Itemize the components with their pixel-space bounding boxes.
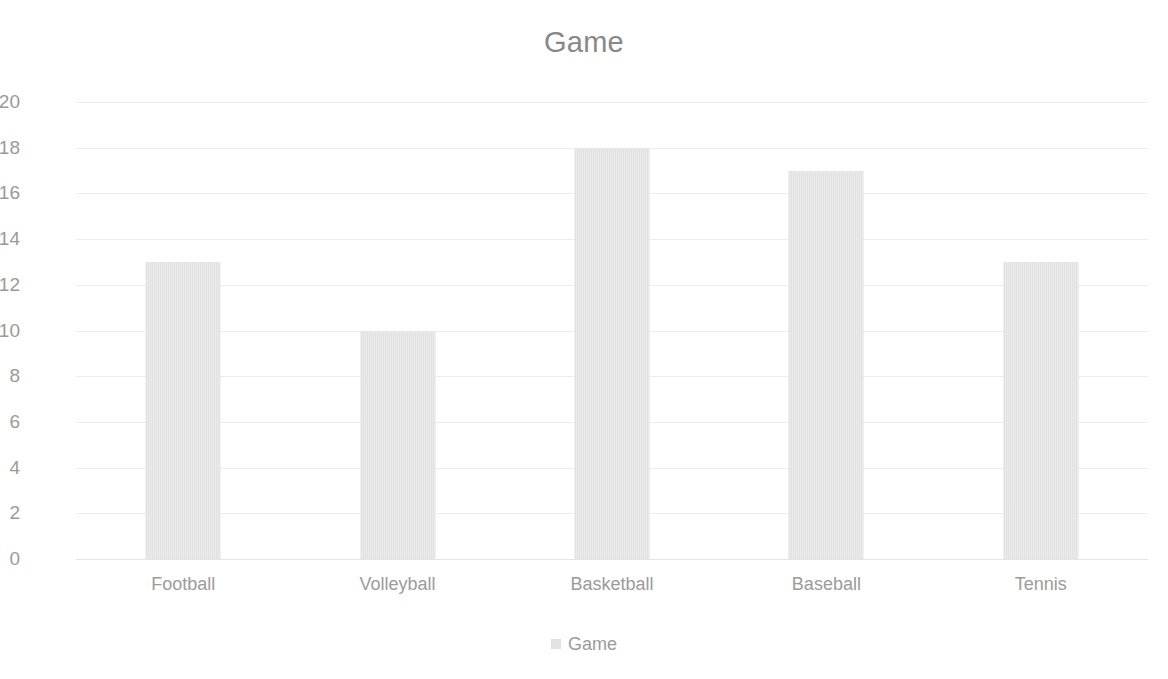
bars-layer	[76, 102, 1148, 559]
x-axis-tick-baseball: Baseball	[792, 572, 861, 596]
y-axis-tick-0: 0	[0, 549, 20, 569]
plot-area	[76, 102, 1148, 559]
chart-legend: Game	[0, 633, 1168, 655]
x-axis-tick-tennis: Tennis	[1015, 572, 1067, 596]
bar-slot	[934, 102, 1148, 559]
y-axis-tick-6: 6	[0, 412, 20, 432]
bar[interactable]	[1003, 262, 1078, 559]
bar-chart: Game 20181614121086420 FootballVolleybal…	[0, 0, 1168, 679]
bar[interactable]	[574, 148, 649, 559]
y-axis-tick-4: 4	[0, 458, 20, 478]
y-axis-tick-16: 16	[0, 183, 20, 203]
bar[interactable]	[789, 171, 864, 559]
y-axis-tick-8: 8	[0, 366, 20, 386]
bar-slot	[505, 102, 719, 559]
gridline-0	[76, 559, 1148, 560]
x-axis: FootballVolleyballBasketballBaseballTenn…	[76, 572, 1148, 602]
y-axis-tick-10: 10	[0, 321, 20, 341]
y-axis: 20181614121086420	[0, 0, 76, 679]
bar-slot	[290, 102, 504, 559]
x-axis-tick-basketball: Basketball	[570, 572, 653, 596]
legend-swatch-game	[551, 639, 561, 649]
bar[interactable]	[360, 331, 435, 560]
y-axis-tick-18: 18	[0, 138, 20, 158]
y-axis-tick-2: 2	[0, 503, 20, 523]
bar-slot	[719, 102, 933, 559]
y-axis-tick-20: 20	[0, 92, 20, 112]
x-axis-tick-volleyball: Volleyball	[360, 572, 436, 596]
y-axis-tick-12: 12	[0, 275, 20, 295]
x-axis-tick-football: Football	[151, 572, 215, 596]
bar[interactable]	[146, 262, 221, 559]
chart-title: Game	[0, 22, 1168, 62]
legend-label-game: Game	[568, 633, 617, 655]
y-axis-tick-14: 14	[0, 229, 20, 249]
bar-slot	[76, 102, 290, 559]
